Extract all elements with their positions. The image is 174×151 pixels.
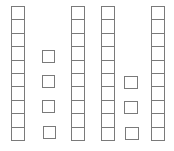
rod-cell bbox=[152, 100, 164, 113]
rod-cell bbox=[152, 60, 164, 73]
rod-cell bbox=[12, 100, 24, 113]
rod-cell bbox=[72, 73, 84, 86]
ten-rod-2 bbox=[71, 6, 85, 141]
rod-cell bbox=[102, 60, 114, 73]
rod-cell bbox=[72, 33, 84, 46]
rod-cell bbox=[72, 60, 84, 73]
unit-cube bbox=[124, 76, 138, 89]
rod-cell bbox=[152, 127, 164, 140]
rod-cell bbox=[102, 100, 114, 113]
rod-cell bbox=[102, 86, 114, 99]
rod-cell bbox=[12, 7, 24, 19]
rod-cell bbox=[152, 113, 164, 126]
rod-cell bbox=[152, 73, 164, 86]
rod-cell bbox=[72, 46, 84, 59]
unit-cube bbox=[42, 100, 55, 113]
ten-rod-3 bbox=[101, 6, 115, 141]
rod-cell bbox=[152, 46, 164, 59]
rod-cell bbox=[102, 19, 114, 32]
rod-cell bbox=[72, 19, 84, 32]
rod-cell bbox=[12, 73, 24, 86]
rod-cell bbox=[72, 113, 84, 126]
rod-cell bbox=[152, 19, 164, 32]
rod-cell bbox=[72, 127, 84, 140]
rod-cell bbox=[12, 33, 24, 46]
rod-cell bbox=[12, 46, 24, 59]
rod-cell bbox=[102, 33, 114, 46]
rod-cell bbox=[72, 86, 84, 99]
rod-cell bbox=[72, 7, 84, 19]
rod-cell bbox=[152, 33, 164, 46]
rod-cell bbox=[102, 73, 114, 86]
rod-cell bbox=[102, 46, 114, 59]
rod-cell bbox=[152, 86, 164, 99]
rod-cell bbox=[72, 100, 84, 113]
rod-cell bbox=[12, 60, 24, 73]
rod-cell bbox=[12, 19, 24, 32]
rod-cell bbox=[12, 127, 24, 140]
rod-cell bbox=[152, 7, 164, 19]
rod-cell bbox=[102, 7, 114, 19]
ten-rod-4 bbox=[151, 6, 165, 141]
rod-cell bbox=[102, 113, 114, 126]
unit-cube bbox=[42, 75, 55, 88]
rod-cell bbox=[12, 86, 24, 99]
rod-cell bbox=[12, 113, 24, 126]
rod-cell bbox=[102, 127, 114, 140]
unit-cube bbox=[42, 50, 55, 63]
ten-rod-1 bbox=[11, 6, 25, 141]
unit-cube bbox=[124, 101, 138, 114]
unit-cube bbox=[43, 126, 56, 139]
unit-cube bbox=[125, 127, 139, 140]
